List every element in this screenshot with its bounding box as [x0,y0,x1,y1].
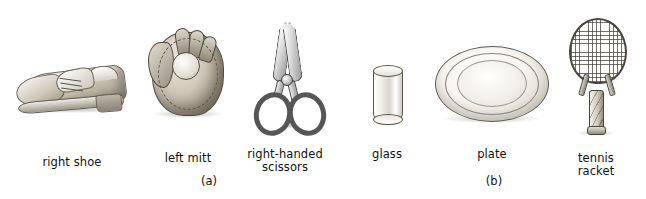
figure-chiral-and-achiral-objects: right shoe left mitt [0,0,646,199]
tennis-racket-illustration [563,16,629,136]
glass-base [373,114,403,125]
item-glass: glass [358,48,416,161]
glass-illustration [360,48,414,126]
panel-a: right shoe left mitt [0,0,340,199]
shoe-lace [59,78,81,82]
glass-rim [373,65,403,77]
racket-head-strings [569,18,627,84]
racket-butt-cap [587,126,606,135]
item-tennis-racket: tennis racket [562,16,630,178]
right-handed-scissors-illustration [248,18,322,130]
right-shoe-illustration [12,36,132,122]
caption-tennis-racket: tennis racket [562,152,630,178]
scissors-pivot-screw [281,74,293,86]
caption-right-shoe: right shoe [10,156,134,169]
panel-b: glass plate tennis racket (b [340,0,646,199]
mitt-pocket [172,52,200,80]
item-left-mitt: left mitt [142,22,234,165]
panel-label-b: (b) [474,174,514,188]
item-right-handed-scissors: right-handed scissors [240,18,330,174]
plate-well [457,60,527,107]
caption-left-mitt: left mitt [142,152,234,165]
plate-illustration [433,32,551,128]
caption-glass: glass [358,148,416,161]
caption-plate: plate [432,148,552,161]
left-mitt-illustration [142,22,234,126]
shoe-lace [61,88,83,92]
shoe-lace [60,83,82,87]
shoe-heel [95,93,122,113]
item-plate: plate [432,32,552,161]
caption-right-handed-scissors: right-handed scissors [240,148,330,174]
panel-label-a: (a) [189,174,229,188]
item-right-shoe: right shoe [10,36,134,169]
